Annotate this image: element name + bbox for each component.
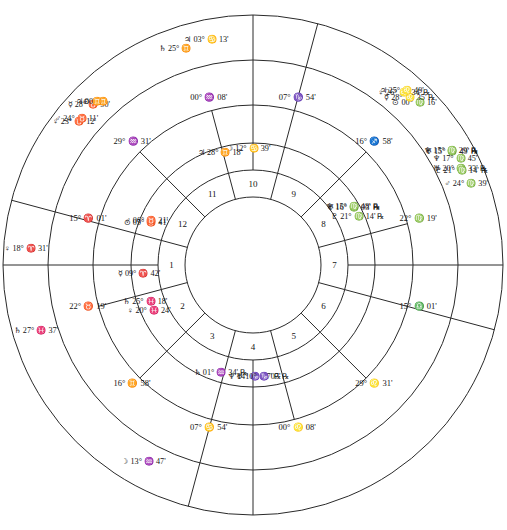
cusp-label-house-1: 15° ♈ 01' — [69, 213, 107, 223]
natal-planet-neptune2: ♆ 15° ♍ 48' ℞ — [326, 201, 379, 211]
house-divider-6 — [301, 313, 320, 332]
cusp-label-house-6: 29° ♌ 31' — [355, 378, 393, 388]
house-divider-10 — [271, 173, 278, 199]
wheel-labels: 12345678910111215° ♈ 01'22° ♉ 19'16° ♊ 5… — [4, 34, 488, 466]
house-number-2: 2 — [180, 301, 185, 311]
cusp-spoke-8 — [345, 224, 408, 241]
cusp-spoke-9 — [320, 152, 366, 198]
transit-planet-moon: ☽ 13° ♒ 47' — [121, 456, 166, 466]
house-divider-4 — [228, 331, 235, 357]
cusp-label-house-9: 16° ♐ 58' — [355, 136, 393, 146]
house-number-4: 4 — [251, 342, 256, 352]
cusp-label-house-10: 07° ♑ 54' — [279, 92, 317, 102]
cusp-label-house-5: 00° ♌ 08' — [279, 422, 317, 432]
natal-planet-saturn2: ♄ 25° ♓ 18' — [123, 296, 168, 306]
cusp-label-house-3: 16° ♊ 58' — [113, 378, 151, 388]
cusp-label-house-7: 15° ♎ 01' — [400, 301, 438, 311]
ring-center-disc — [185, 197, 321, 333]
astrology-chart-root: 12345678910111215° ♈ 01'22° ♉ 19'16° ♊ 5… — [0, 0, 507, 530]
house-divider-8 — [319, 240, 345, 247]
house-divider-2 — [161, 283, 187, 290]
house-divider-9 — [301, 198, 320, 217]
cusp-spoke-12 — [140, 152, 186, 198]
house-number-10: 10 — [249, 179, 259, 189]
house-number-6: 6 — [321, 301, 326, 311]
cusp-label-house-4: 07° ♋ 54' — [190, 422, 228, 432]
transit-planet-saturn: ♄ 27° ♓ 37' — [14, 325, 59, 335]
transit-planet-jupiter2: ♃ 03° ♋ 13' — [184, 34, 229, 44]
house-number-7: 7 — [332, 260, 337, 270]
house-divider-11 — [228, 173, 235, 199]
transit-planet-jupiter3: ♃ 25° ♌ 49' — [380, 85, 425, 95]
cusp-spoke-11 — [212, 110, 229, 173]
house-divider-3 — [186, 313, 205, 332]
transit-planet-neptune2: ♆ 17° ♍ 45' — [433, 153, 478, 163]
transit-planet-mars: ♂ 24° ♉ 11' — [55, 113, 99, 123]
house-divider-7 — [319, 283, 345, 290]
house-number-11: 11 — [208, 189, 217, 199]
house-number-12: 12 — [178, 219, 187, 229]
transit-planet-saturn2: ♄ 25° ♊ — [159, 43, 192, 53]
cusp-spoke-6 — [320, 332, 366, 378]
transit-planet-mars2: ♂ 24° ♍ 39' — [445, 178, 489, 188]
house-number-1: 1 — [169, 260, 174, 270]
cusp-label-house-2: 22° ♉ 19' — [69, 301, 107, 311]
natal-planet-mercury: ☿ 09° ♈ 42' — [118, 268, 161, 278]
house-number-3: 3 — [210, 331, 215, 341]
cusp-label-house-12: 29° ♒ 31' — [114, 136, 152, 146]
transit-planet-sun2: ⊙ ♊ — [83, 96, 102, 106]
transit-planet-pluto: ♇ 21° ♍ 14' ℞ — [435, 165, 488, 175]
house-divider-1 — [161, 240, 187, 247]
natal-planet-mars: ♂ 06° ♉ 21' — [125, 215, 169, 225]
astrology-wheel-svg: 12345678910111215° ♈ 01'22° ♉ 19'16° ♊ 5… — [0, 0, 507, 530]
house-number-5: 5 — [291, 331, 296, 341]
cusp-label-house-8: 22° ♍ 19' — [400, 213, 438, 223]
transit-planet-venus: ♀ 18° ♈ 31' — [4, 243, 48, 253]
natal-planet-pluto: ♇ 21° ♍ 14' ℞ — [331, 211, 384, 221]
cusp-label-house-11: 00° ♒ 08' — [190, 92, 228, 102]
natal-planet-venus: ♀ 20° ♓ 24' — [127, 305, 171, 315]
cusp-spoke-3 — [140, 332, 186, 378]
house-divider-5 — [271, 331, 278, 357]
cusp-spoke-5 — [278, 357, 295, 420]
natal-planet-moon: ☽ 12° ♋ 39' — [226, 143, 271, 153]
house-number-8: 8 — [321, 219, 326, 229]
house-number-9: 9 — [292, 189, 297, 199]
natal-planet-saturn: ♄ 01° ♒ 34' ℞ — [194, 367, 247, 377]
house-divider-12 — [186, 198, 205, 217]
